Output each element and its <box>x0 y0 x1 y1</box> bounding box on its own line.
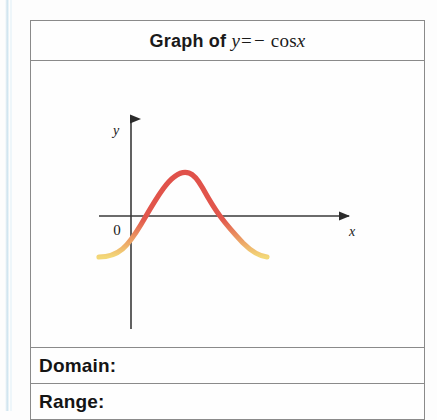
title-row: Graph of y=− cosx <box>31 21 424 61</box>
worksheet-table: Graph of y=− cosx <box>30 20 425 420</box>
range-row[interactable]: Range: <box>31 384 424 420</box>
domain-label: Domain: <box>39 355 116 377</box>
range-label: Range: <box>39 391 105 413</box>
scan-artifact-left-edge-inner <box>10 0 12 411</box>
equation-argument: x <box>297 30 306 51</box>
equation-equals: = <box>240 30 253 51</box>
scan-artifact-left-edge <box>5 0 9 411</box>
cosine-curve <box>99 172 267 257</box>
cosine-graph: y x 0 <box>31 61 423 346</box>
equation-lhs: y <box>231 30 240 51</box>
title-equation: y=− cosx <box>231 30 305 51</box>
x-axis-label: x <box>348 224 356 239</box>
equation-function: cos <box>271 30 297 51</box>
domain-row[interactable]: Domain: <box>31 348 424 384</box>
page-title: Graph of y=− cosx <box>150 30 306 52</box>
equation-minus: − <box>253 30 266 51</box>
graph-row: y x 0 <box>31 61 424 348</box>
origin-label: 0 <box>113 222 121 238</box>
y-axis-label: y <box>111 123 120 138</box>
title-prefix: Graph of <box>150 31 227 51</box>
